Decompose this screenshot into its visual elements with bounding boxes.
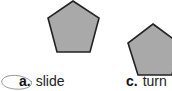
option-c[interactable]: c.turn bbox=[126, 74, 167, 88]
option-c-text: turn bbox=[143, 73, 167, 89]
option-c-letter: c. bbox=[126, 73, 138, 89]
option-a-letter: a. bbox=[19, 73, 31, 89]
option-a-text: slide bbox=[36, 73, 65, 89]
pentagon-shape-original bbox=[48, 1, 99, 52]
option-a[interactable]: a.slide bbox=[19, 74, 64, 88]
pentagon-shape-turned bbox=[128, 24, 172, 75]
